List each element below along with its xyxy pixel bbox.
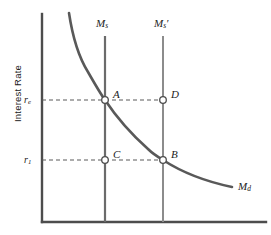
point-c-label: C	[113, 149, 120, 160]
y-axis-label: Interest Rate	[12, 47, 23, 141]
point-a-marker	[102, 97, 109, 104]
money-demand-label-sub: d	[247, 184, 251, 193]
diagram-canvas	[0, 0, 271, 235]
money-supply-shifted-label-base: M	[154, 17, 163, 29]
y-tick-r-e-sub: e	[28, 98, 31, 105]
money-market-diagram: Interest Rate re r1 Ms Ms′ Md A D C B	[0, 0, 271, 235]
y-tick-r-1-sub: 1	[28, 158, 31, 165]
money-supply-shifted-label: Ms′	[154, 18, 169, 30]
y-tick-label-r-1: r1	[24, 155, 31, 166]
point-c-marker	[102, 157, 109, 164]
point-d-label: D	[171, 89, 179, 100]
point-d-marker	[160, 97, 167, 104]
point-a-label: A	[113, 89, 120, 100]
y-tick-label-r-e: re	[24, 95, 31, 106]
point-b-marker	[160, 157, 167, 164]
money-demand-label-base: M	[238, 180, 247, 192]
money-supply-label: Ms	[96, 18, 108, 30]
money-demand-label: Md	[238, 181, 251, 193]
money-supply-shifted-label-prime: ′	[166, 17, 168, 29]
money-supply-label-base: M	[96, 17, 105, 29]
point-b-label: B	[171, 149, 178, 160]
money-supply-label-sub: s	[105, 21, 108, 30]
